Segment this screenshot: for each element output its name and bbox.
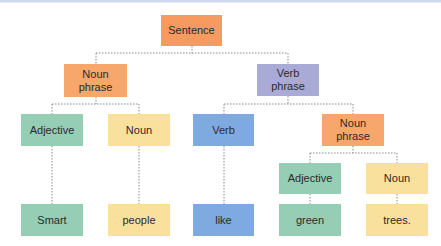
node-label: Verb phrase [271,67,305,93]
sentence-parse-tree-diagram: ovp Sentence Noun phrase Ver [0,0,441,246]
leaf-word-like: like [193,204,254,236]
node-label: Noun [384,172,410,185]
node-noun-object: Noun [366,163,428,194]
node-sentence: Sentence [161,15,222,46]
leaf-word-smart: Smart [21,204,83,236]
node-noun-phrase-object: Noun phrase [322,114,384,146]
node-label: Noun phrase [336,117,370,143]
node-label: Noun phrase [79,68,113,94]
leaf-word-people: people [108,204,170,236]
leaf-label: trees. [383,214,411,227]
node-label: Adjective [30,124,75,137]
node-adjective: Adjective [21,114,83,146]
node-label: Sentence [168,24,214,37]
leaf-word-trees: trees. [366,204,428,236]
node-label: Verb [212,124,235,137]
node-noun-phrase: Noun phrase [64,64,127,97]
leaf-label: like [215,214,232,227]
node-verb: Verb [193,114,254,146]
leaf-word-green: green [279,204,341,236]
leaf-label: green [296,214,324,227]
node-adjective-object: Adjective [279,163,341,194]
node-label: Adjective [288,172,333,185]
node-label: Noun [126,124,152,137]
node-noun: Noun [108,114,170,146]
node-verb-phrase: Verb phrase [257,64,319,96]
leaf-label: Smart [37,214,66,227]
leaf-label: people [122,214,155,227]
